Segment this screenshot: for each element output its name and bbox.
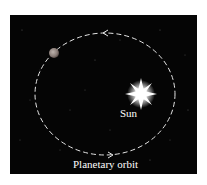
planet-icon bbox=[49, 48, 59, 58]
orbit-label: Planetary orbit bbox=[73, 158, 138, 170]
sun-label: Sun bbox=[120, 107, 138, 119]
space-background bbox=[10, 15, 197, 174]
orbit-diagram: Sun Planetary orbit bbox=[0, 0, 207, 185]
